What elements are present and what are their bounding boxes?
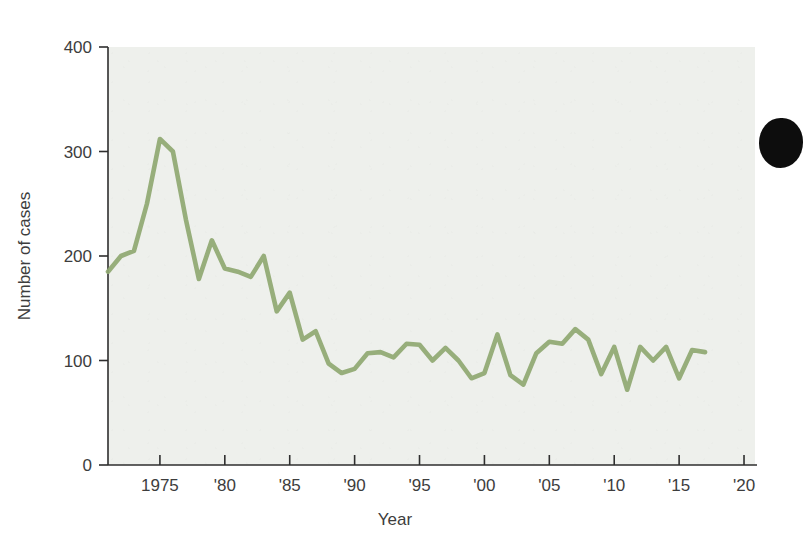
x-tick-label: '10 <box>603 476 625 495</box>
y-tick-marks <box>99 47 108 465</box>
x-tick-label: '80 <box>214 476 236 495</box>
y-axis: 0100200300400 Number of cases <box>15 38 108 475</box>
y-tick-labels: 0100200300400 <box>64 38 92 475</box>
y-tick-label: 200 <box>64 247 92 266</box>
x-tick-marks <box>160 455 744 465</box>
x-tick-label: '95 <box>408 476 430 495</box>
cases-line-series <box>108 139 705 390</box>
y-axis-title: Number of cases <box>15 192 34 321</box>
x-tick-label: '15 <box>668 476 690 495</box>
x-tick-label: '20 <box>733 476 755 495</box>
y-tick-label: 400 <box>64 38 92 57</box>
x-tick-labels: 1975'80'85'90'95'00'05'10'15'20 <box>141 476 755 495</box>
y-tick-label: 300 <box>64 143 92 162</box>
x-axis-title: Year <box>378 510 413 529</box>
x-axis: 1975'80'85'90'95'00'05'10'15'20 Year <box>108 455 757 529</box>
x-tick-label: '85 <box>279 476 301 495</box>
y-tick-label: 100 <box>64 352 92 371</box>
x-tick-label: 1975 <box>141 476 179 495</box>
y-tick-label: 0 <box>83 456 92 475</box>
x-tick-label: '90 <box>344 476 366 495</box>
x-tick-label: '00 <box>473 476 495 495</box>
x-tick-label: '05 <box>538 476 560 495</box>
